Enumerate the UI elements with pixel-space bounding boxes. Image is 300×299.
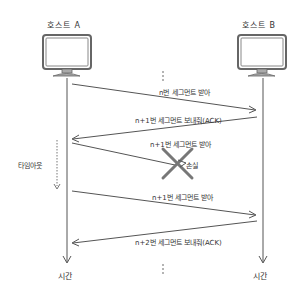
host-a-monitor-icon [43,35,91,76]
ellipsis-bottom-icon [162,264,164,274]
host-b-label: 호스트 B [242,19,276,30]
timeout-label: 타임아웃 [18,160,42,170]
host-a-label: 호스트 A [47,19,81,30]
loss-label: 손실 [186,160,198,170]
message-5-label: n+2번 세그먼트 보내줘(ACK) [135,237,222,247]
tcp-retransmission-diagram [0,0,300,299]
message-4-label: n+1번 세그먼트 받아 [152,192,213,202]
host-b-monitor-icon [238,35,286,76]
time-label-b: 시간 [253,270,267,281]
message-2-label: n+1번 세그먼트 보내줘(ACK) [135,115,222,125]
message-1-label: n번 세그먼트 받아 [159,87,210,97]
message-3-label: n+1번 세그먼트 받아 [150,139,211,149]
time-label-a: 시간 [58,270,72,281]
ellipsis-top-icon [162,71,164,81]
